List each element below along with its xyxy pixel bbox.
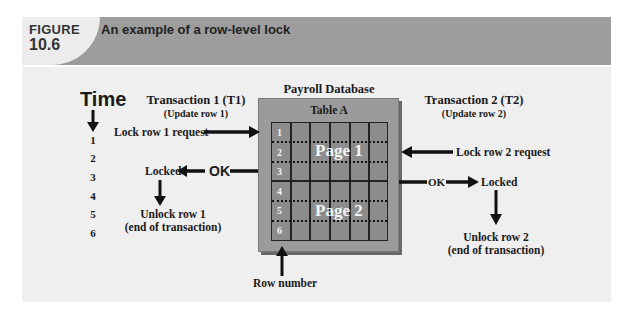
diagram-arrows <box>0 0 634 317</box>
lock-row-2-request-arrow-icon <box>401 146 453 158</box>
lock-row-1-request-arrow-icon <box>204 126 260 138</box>
ok-to-locked-t1-arrow-icon <box>177 165 205 177</box>
locked-to-unlock-t2-arrow-icon <box>490 190 502 225</box>
ok-to-locked-t2-arrow-icon <box>446 176 479 188</box>
locked-to-unlock-t1-arrow-icon <box>154 180 166 206</box>
row-number-up-arrow-icon <box>276 246 288 276</box>
time-down-arrow-icon <box>87 110 99 132</box>
